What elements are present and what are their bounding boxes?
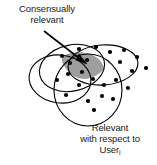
relevant-label-line3: Useri <box>66 144 154 158</box>
data-point <box>77 47 81 51</box>
data-point <box>102 83 106 87</box>
consensually-relevant-label: Consensually relevant <box>8 3 86 25</box>
data-point <box>122 48 126 52</box>
data-point <box>86 99 90 103</box>
data-point <box>111 97 115 101</box>
data-point <box>130 69 134 73</box>
data-point <box>64 93 68 97</box>
data-point <box>108 50 112 54</box>
data-point <box>55 78 59 82</box>
data-point <box>118 60 122 64</box>
relevant-label-line2: with respect to <box>66 133 154 144</box>
data-point <box>114 78 118 82</box>
venn-diagram-figure: Consensually relevant Relevant with resp… <box>0 0 157 165</box>
user-subscript: i <box>119 149 120 156</box>
data-point <box>80 70 84 74</box>
data-point <box>144 66 148 70</box>
data-point <box>135 55 139 59</box>
data-point <box>91 77 95 81</box>
data-point <box>92 108 96 112</box>
data-point <box>68 61 72 65</box>
consensual-label-line1: Consensually <box>8 3 86 14</box>
data-point <box>66 72 70 76</box>
data-point <box>126 86 130 90</box>
consensual-label-line2: relevant <box>8 14 86 25</box>
data-point <box>60 54 64 58</box>
relevant-wrt-user-label: Relevant with respect to Useri <box>66 122 154 158</box>
data-point <box>100 94 104 98</box>
data-point <box>85 58 89 62</box>
user-text: User <box>99 144 119 155</box>
data-point <box>94 45 98 49</box>
relevant-label-line1: Relevant <box>66 122 154 133</box>
data-point <box>77 83 81 87</box>
